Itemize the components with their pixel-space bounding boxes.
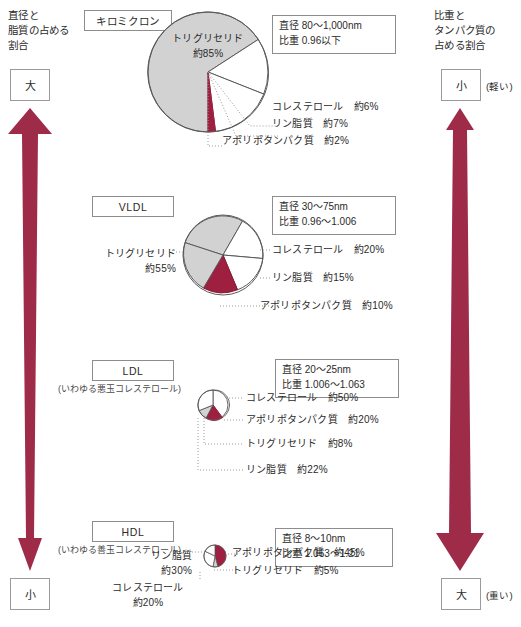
left-axis-bottom-box: 小 xyxy=(10,578,50,610)
spec-ldl-density: 比重 1.006〜1.063 xyxy=(282,378,392,393)
left-arrow-shape xyxy=(8,108,52,571)
pie-label-chylomicron-cholesterol: コレステロール 約6% xyxy=(272,100,379,114)
label-name: リン脂質 xyxy=(118,548,192,563)
pie-label-ldl-triglyceride: トリグリセリド 約8% xyxy=(246,437,353,451)
chart-subtitle-ldl: (いわゆる悪玉コレステロール) xyxy=(58,382,181,395)
right-axis-bottom-box: 大 xyxy=(441,578,481,610)
label-name: トリグリセリド xyxy=(66,246,176,261)
spec-ldl-diameter: 直径 20〜25nm xyxy=(282,363,392,378)
right-axis-top-box: 小 xyxy=(441,69,481,101)
label-name: コレステロール xyxy=(100,580,196,595)
pie-label-vldl-apolipoprotein: アポリポタンパク質 約10% xyxy=(260,299,393,313)
right-axis-top-note: (軽い) xyxy=(486,79,513,93)
pie-label-hdl-cholesterol: コレステロール 約20% xyxy=(100,580,196,610)
right-arrow-svg xyxy=(434,108,486,571)
spec-chylomicron-density: 比重 0.96以下 xyxy=(279,34,389,49)
pie-label-chylomicron-apolipoprotein: アポリポタンパク質 約2% xyxy=(222,134,349,148)
spec-hdl-diameter: 直径 8〜10nm xyxy=(282,532,386,547)
spec-box-vldl: 直径 30〜75nm 比重 0.96〜1.006 xyxy=(272,196,396,235)
chart-tag-vldl-label: VLDL xyxy=(119,201,148,213)
left-axis-arrow xyxy=(4,108,56,571)
label-name: トリグリセリド xyxy=(166,31,250,46)
right-axis-top-box-label: 小 xyxy=(456,77,467,93)
pie-label-vldl-cholesterol: コレステロール 約20% xyxy=(272,243,384,257)
chart-tag-ldl: LDL xyxy=(92,360,174,381)
label-value: 約30% xyxy=(118,563,192,578)
leader-phos xyxy=(208,72,278,136)
pie-label-hdl-apolipoprotein: アポリポタンパク質 約45% xyxy=(232,546,365,560)
pie-label-hdl-triglyceride: トリグリセリド 約5% xyxy=(232,564,339,578)
pie-label-ldl-cholesterol: コレステロール 約50% xyxy=(246,391,358,405)
chart-tag-vldl: VLDL xyxy=(92,196,174,217)
right-axis-arrow xyxy=(434,108,486,571)
left-arrow-svg xyxy=(4,108,56,571)
pie-label-vldl-phospholipid: リン脂質 約15% xyxy=(272,271,354,285)
spec-vldl-density: 比重 0.96〜1.006 xyxy=(279,215,389,230)
pie-label-ldl-phospholipid: リン脂質 約22% xyxy=(246,463,328,477)
left-axis-bottom-box-label: 小 xyxy=(25,586,36,602)
leader-chol xyxy=(208,72,278,126)
right-axis-bottom-note: (重い) xyxy=(486,588,513,602)
pie-label-vldl-triglyceride: トリグリセリド 約55% xyxy=(66,246,176,276)
label-value: 約20% xyxy=(100,595,196,610)
chart-tag-hdl: HDL xyxy=(92,521,174,542)
right-arrow-shape xyxy=(436,108,484,571)
spec-chylomicron-diameter: 直径 80〜1,000nm xyxy=(279,19,389,34)
right-axis-heading-line-1: 比重と xyxy=(434,8,520,23)
chart-tag-ldl-label: LDL xyxy=(122,365,143,377)
leader-tg xyxy=(204,418,244,444)
pie-label-chylomicron-phospholipid: リン脂質 約7% xyxy=(272,117,348,131)
right-axis-heading-line-2: タンパク質の xyxy=(434,23,520,38)
label-value: 約55% xyxy=(66,261,176,276)
left-axis-top-box-label: 大 xyxy=(25,77,36,93)
pie-label-chylomicron-triglyceride: トリグリセリド 約85% xyxy=(166,31,250,61)
pie-label-hdl-phospholipid: リン脂質 約30% xyxy=(118,548,192,578)
right-axis-heading: 比重と タンパク質の 占める割合 xyxy=(434,8,520,53)
right-axis-bottom-box-label: 大 xyxy=(456,586,467,602)
right-axis-heading-line-3: 占める割合 xyxy=(434,38,520,53)
chart-tag-hdl-label: HDL xyxy=(122,526,145,538)
left-axis-heading-line-3: 割合 xyxy=(8,38,98,53)
spec-box-chylomicron: 直径 80〜1,000nm 比重 0.96以下 xyxy=(272,15,396,54)
left-axis-top-box: 大 xyxy=(10,69,50,101)
label-value: 約85% xyxy=(166,46,250,61)
spec-vldl-diameter: 直径 30〜75nm xyxy=(279,200,389,215)
pie-label-ldl-apolipoprotein: アポリポタンパク質 約20% xyxy=(246,413,379,427)
